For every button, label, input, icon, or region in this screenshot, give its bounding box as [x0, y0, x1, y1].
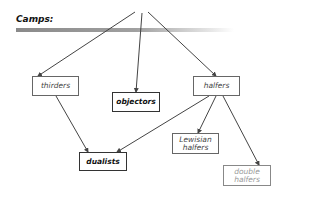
- node-dualists-label: dualists: [86, 158, 119, 166]
- node-thirders-label: thirders: [41, 82, 70, 90]
- node-lewisian-halfers-label: Lewisian halfers: [175, 136, 216, 152]
- node-halfers-label: halfers: [204, 82, 230, 90]
- node-halfers: halfers: [193, 76, 240, 96]
- edge-root-objectors: [136, 13, 142, 92]
- node-double-halfers: double halfers: [223, 165, 271, 186]
- node-objectors-label: objectors: [116, 98, 156, 106]
- edge-thirders-dualists: [56, 96, 88, 152]
- node-double-halfers-label: double halfers: [228, 168, 266, 184]
- edge-halfers-double: [223, 96, 259, 165]
- node-dualists: dualists: [79, 152, 127, 171]
- node-thirders: thirders: [32, 76, 79, 96]
- node-objectors: objectors: [112, 92, 160, 112]
- node-lewisian-halfers: Lewisian halfers: [172, 133, 219, 154]
- edge-root-thirders: [38, 12, 135, 76]
- edge-root-halfers: [148, 12, 216, 76]
